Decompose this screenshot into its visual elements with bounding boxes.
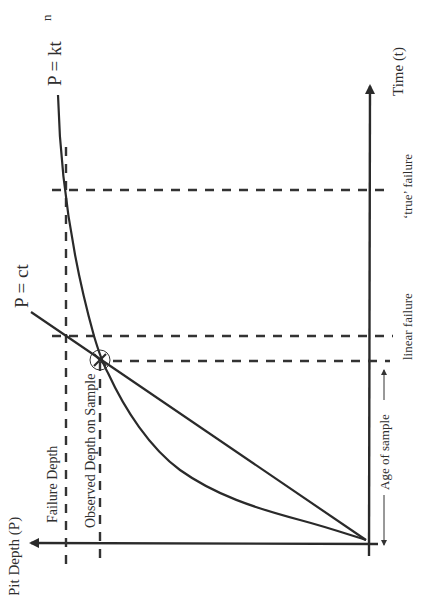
linear-curve-label: P = ct: [11, 263, 32, 308]
linear-failure-label: linear failure: [400, 293, 415, 360]
pit-depth-axis-label: Pit Depth (P): [6, 517, 23, 595]
power-exponent-label: n: [39, 14, 54, 21]
time-axis-label: Time (t): [390, 47, 407, 96]
pit-depth-diagram: Time (t) Pit Depth (P) P = kt n P = ct F…: [0, 0, 431, 595]
age-of-sample-label: Age of sample: [377, 414, 392, 490]
power-curve-label: P = kt: [44, 40, 65, 86]
time-axis: [369, 86, 370, 556]
linear-curve: [31, 312, 366, 540]
true-failure-label: ‘true’ failure: [400, 154, 415, 219]
observed-depth-label: Observed Depth on Sample: [83, 374, 98, 528]
failure-depth-label: Failure Depth: [45, 446, 60, 523]
pit-depth-axis: [31, 543, 378, 544]
power-law-curve: [58, 95, 366, 540]
